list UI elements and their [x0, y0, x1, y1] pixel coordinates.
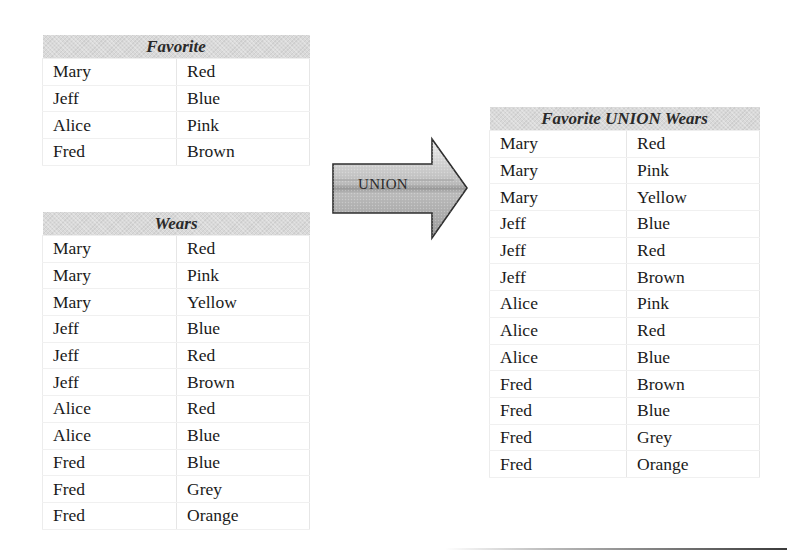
- table-row: FredOrange: [490, 451, 760, 478]
- color-cell: Pink: [177, 112, 310, 139]
- name-cell: Fred: [490, 451, 627, 478]
- table-row: MaryRed: [43, 236, 310, 263]
- color-cell: Yellow: [177, 289, 310, 316]
- name-cell: Alice: [490, 291, 627, 318]
- name-cell: Alice: [490, 317, 627, 344]
- name-cell: Jeff: [490, 211, 627, 238]
- color-cell: Red: [177, 342, 310, 369]
- table-row: FredOrange: [43, 502, 310, 529]
- color-cell: Red: [627, 237, 760, 264]
- name-cell: Mary: [490, 157, 627, 184]
- color-cell: Red: [177, 236, 310, 263]
- table-row: JeffBrown: [43, 369, 310, 396]
- name-cell: Mary: [490, 184, 627, 211]
- name-cell: Fred: [43, 139, 177, 166]
- color-cell: Pink: [627, 291, 760, 318]
- favorite-table-title: Favorite: [43, 35, 310, 59]
- color-cell: Red: [627, 317, 760, 344]
- union-result-table: Favorite UNION Wears MaryRedMaryPinkMary…: [489, 107, 760, 478]
- color-cell: Brown: [627, 371, 760, 398]
- color-cell: Pink: [177, 262, 310, 289]
- color-cell: Blue: [177, 85, 310, 112]
- table-row: MaryPink: [490, 157, 760, 184]
- bottom-divider: [445, 548, 787, 550]
- name-cell: Mary: [43, 59, 177, 86]
- union-operator-label: UNION: [333, 176, 433, 193]
- name-cell: Fred: [43, 449, 177, 476]
- favorite-table-body: MaryRedJeffBlueAlicePinkFredBrown: [43, 59, 310, 166]
- union-result-table-title: Favorite UNION Wears: [490, 107, 760, 131]
- table-row: AliceRed: [490, 317, 760, 344]
- name-cell: Fred: [490, 371, 627, 398]
- table-row: MaryRed: [43, 59, 310, 86]
- color-cell: Grey: [177, 476, 310, 503]
- table-row: AlicePink: [43, 112, 310, 139]
- name-cell: Jeff: [490, 264, 627, 291]
- color-cell: Blue: [177, 449, 310, 476]
- table-row: JeffRed: [490, 237, 760, 264]
- favorite-table: Favorite MaryRedJeffBlueAlicePinkFredBro…: [42, 35, 310, 166]
- name-cell: Jeff: [43, 316, 177, 343]
- name-cell: Mary: [490, 131, 627, 158]
- table-row: AliceBlue: [43, 422, 310, 449]
- wears-table-title: Wears: [43, 212, 310, 236]
- color-cell: Red: [627, 131, 760, 158]
- union-result-table-body: MaryRedMaryPinkMaryYellowJeffBlueJeffRed…: [490, 131, 760, 478]
- name-cell: Fred: [490, 424, 627, 451]
- table-row: FredBlue: [43, 449, 310, 476]
- name-cell: Mary: [43, 262, 177, 289]
- table-row: MaryYellow: [43, 289, 310, 316]
- name-cell: Fred: [43, 502, 177, 529]
- name-cell: Jeff: [490, 237, 627, 264]
- name-cell: Mary: [43, 236, 177, 263]
- table-row: JeffRed: [43, 342, 310, 369]
- name-cell: Fred: [43, 476, 177, 503]
- color-cell: Yellow: [627, 184, 760, 211]
- table-row: JeffBrown: [490, 264, 760, 291]
- color-cell: Red: [177, 396, 310, 423]
- color-cell: Pink: [627, 157, 760, 184]
- table-row: FredGrey: [43, 476, 310, 503]
- wears-table-body: MaryRedMaryPinkMaryYellowJeffBlueJeffRed…: [43, 236, 310, 530]
- name-cell: Alice: [43, 112, 177, 139]
- table-row: MaryYellow: [490, 184, 760, 211]
- wears-table: Wears MaryRedMaryPinkMaryYellowJeffBlueJ…: [42, 212, 310, 530]
- name-cell: Jeff: [43, 369, 177, 396]
- table-row: FredBrown: [43, 139, 310, 166]
- table-row: FredBlue: [490, 397, 760, 424]
- name-cell: Alice: [43, 396, 177, 423]
- name-cell: Jeff: [43, 342, 177, 369]
- color-cell: Brown: [177, 139, 310, 166]
- table-row: JeffBlue: [43, 316, 310, 343]
- table-row: JeffBlue: [490, 211, 760, 238]
- table-row: MaryRed: [490, 131, 760, 158]
- color-cell: Grey: [627, 424, 760, 451]
- name-cell: Alice: [490, 344, 627, 371]
- table-row: FredGrey: [490, 424, 760, 451]
- table-row: MaryPink: [43, 262, 310, 289]
- table-row: JeffBlue: [43, 85, 310, 112]
- color-cell: Blue: [627, 211, 760, 238]
- table-row: AlicePink: [490, 291, 760, 318]
- table-row: AliceRed: [43, 396, 310, 423]
- color-cell: Red: [177, 59, 310, 86]
- name-cell: Mary: [43, 289, 177, 316]
- color-cell: Blue: [627, 397, 760, 424]
- color-cell: Brown: [177, 369, 310, 396]
- table-row: AliceBlue: [490, 344, 760, 371]
- name-cell: Alice: [43, 422, 177, 449]
- table-row: FredBrown: [490, 371, 760, 398]
- color-cell: Blue: [177, 316, 310, 343]
- name-cell: Fred: [490, 397, 627, 424]
- color-cell: Blue: [627, 344, 760, 371]
- name-cell: Jeff: [43, 85, 177, 112]
- color-cell: Orange: [627, 451, 760, 478]
- color-cell: Orange: [177, 502, 310, 529]
- color-cell: Brown: [627, 264, 760, 291]
- color-cell: Blue: [177, 422, 310, 449]
